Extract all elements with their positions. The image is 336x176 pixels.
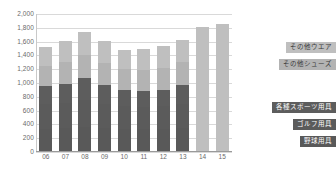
bar-segment[interactable] bbox=[216, 24, 229, 152]
bar-segment[interactable] bbox=[137, 70, 150, 91]
bar-segment[interactable] bbox=[196, 27, 209, 152]
bar-segment[interactable] bbox=[59, 103, 72, 128]
bar-segment[interactable] bbox=[59, 128, 72, 152]
stacked-bar-chart: 2,0001,8001,6001,4001,2001,0008006004002… bbox=[0, 0, 336, 176]
legend-swatch-label[interactable]: その他ウエア bbox=[286, 42, 336, 53]
bar-segment[interactable] bbox=[157, 90, 170, 107]
bar-segment[interactable] bbox=[157, 68, 170, 90]
bar-segment[interactable] bbox=[118, 69, 131, 90]
legend-item[interactable]: 各種スポーツ用具 bbox=[236, 102, 336, 113]
y-axis-tick-label: 0 bbox=[2, 149, 34, 156]
bar-segment[interactable] bbox=[98, 104, 111, 128]
bar-column[interactable] bbox=[176, 14, 189, 152]
x-axis-tick-label: 08 bbox=[78, 154, 91, 161]
bar-segment[interactable] bbox=[118, 129, 131, 152]
bar-segment[interactable] bbox=[39, 47, 52, 66]
bar-segment[interactable] bbox=[78, 32, 91, 55]
legend-item[interactable]: 野球用具 bbox=[236, 136, 336, 147]
bar-segment[interactable] bbox=[39, 86, 52, 105]
y-axis-tick-label: 2,000 bbox=[2, 11, 34, 18]
bar-column[interactable] bbox=[59, 14, 72, 152]
legend-swatch-label[interactable]: 野球用具 bbox=[300, 136, 336, 147]
bar-segment[interactable] bbox=[157, 46, 170, 68]
y-axis-tick-label: 1,400 bbox=[2, 52, 34, 59]
bar-segment[interactable] bbox=[176, 85, 189, 104]
y-axis-tick-label: 600 bbox=[2, 108, 34, 115]
x-axis-tick-label: 12 bbox=[157, 154, 170, 161]
bar-segment[interactable] bbox=[59, 41, 72, 62]
legend-swatch-label[interactable]: 各種スポーツ用具 bbox=[272, 102, 336, 113]
plot-area bbox=[36, 14, 232, 152]
bar-segment[interactable] bbox=[137, 91, 150, 108]
y-axis-tick-label: 1,600 bbox=[2, 39, 34, 46]
y-axis-tick-label: 200 bbox=[2, 135, 34, 142]
legend-swatch-label[interactable]: その他シューズ bbox=[279, 59, 336, 70]
bar-segment[interactable] bbox=[78, 55, 91, 78]
bar-segment[interactable] bbox=[176, 128, 189, 152]
bar-segment[interactable] bbox=[137, 129, 150, 152]
legend-item[interactable]: ゴルフ用具 bbox=[236, 119, 336, 130]
x-axis-tick-labels: 06070809101112131415 bbox=[36, 154, 232, 166]
x-axis-tick-label: 09 bbox=[98, 154, 111, 161]
bar-column[interactable] bbox=[216, 14, 229, 152]
y-axis-tick-label: 1,000 bbox=[2, 80, 34, 87]
legend-swatch-label[interactable]: ゴルフ用具 bbox=[293, 119, 336, 130]
bar-column[interactable] bbox=[196, 14, 209, 152]
bar-segment[interactable] bbox=[39, 66, 52, 85]
x-axis-tick-label: 10 bbox=[118, 154, 131, 161]
bar-segment[interactable] bbox=[78, 100, 91, 127]
x-axis-tick-label: 07 bbox=[59, 154, 72, 161]
bar-segment[interactable] bbox=[39, 104, 52, 128]
bar-segment[interactable] bbox=[118, 90, 131, 107]
bar-segment[interactable] bbox=[137, 107, 150, 129]
legend-item[interactable]: その他ウエア bbox=[236, 42, 336, 53]
y-axis-tick-label: 800 bbox=[2, 94, 34, 101]
bar-column[interactable] bbox=[118, 14, 131, 152]
bar-segment[interactable] bbox=[137, 49, 150, 70]
bar-segment[interactable] bbox=[176, 40, 189, 62]
bar-column[interactable] bbox=[157, 14, 170, 152]
bar-column[interactable] bbox=[137, 14, 150, 152]
bar-segment[interactable] bbox=[98, 41, 111, 63]
bar-segment[interactable] bbox=[176, 104, 189, 128]
x-axis-line bbox=[36, 151, 232, 152]
bar-segment[interactable] bbox=[39, 129, 52, 152]
bar-segment[interactable] bbox=[98, 63, 111, 84]
bar-segment[interactable] bbox=[98, 128, 111, 152]
x-axis-tick-label: 13 bbox=[176, 154, 189, 161]
bar-segment[interactable] bbox=[118, 106, 131, 128]
bar-segment[interactable] bbox=[59, 62, 72, 83]
x-axis-tick-label: 06 bbox=[39, 154, 52, 161]
bar-segment[interactable] bbox=[157, 129, 170, 152]
x-axis-tick-label: 14 bbox=[196, 154, 209, 161]
bars-layer bbox=[36, 14, 232, 152]
bar-column[interactable] bbox=[78, 14, 91, 152]
x-axis-tick-label: 11 bbox=[137, 154, 150, 161]
y-axis-tick-label: 1,200 bbox=[2, 66, 34, 73]
y-axis-tick-label: 400 bbox=[2, 121, 34, 128]
x-axis-tick-label: 15 bbox=[216, 154, 229, 161]
bar-segment[interactable] bbox=[98, 85, 111, 104]
y-axis-tick-label: 1,800 bbox=[2, 25, 34, 32]
chart-legend: その他ウエアその他シューズ各種スポーツ用具ゴルフ用具野球用具 bbox=[236, 14, 336, 166]
bar-segment[interactable] bbox=[78, 127, 91, 152]
bar-segment[interactable] bbox=[78, 78, 91, 100]
bar-segment[interactable] bbox=[157, 106, 170, 128]
bar-segment[interactable] bbox=[59, 84, 72, 103]
legend-item[interactable]: その他シューズ bbox=[236, 59, 336, 70]
bar-column[interactable] bbox=[39, 14, 52, 152]
bar-segment[interactable] bbox=[118, 50, 131, 69]
bar-segment[interactable] bbox=[176, 62, 189, 85]
bar-column[interactable] bbox=[98, 14, 111, 152]
